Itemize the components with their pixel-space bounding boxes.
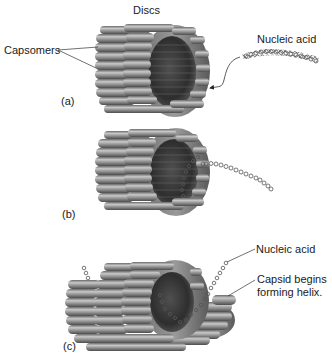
discs-label: Discs (133, 4, 160, 16)
insertion-arrow (210, 57, 240, 88)
panel-c-leader-lines (227, 249, 255, 296)
capsomers-label: Capsomers (4, 44, 60, 56)
nucleic-acid-label-a: Nucleic acid (257, 33, 316, 45)
panel-label-b: (b) (62, 208, 75, 220)
capsid-helix-label-line1: Capsid begins (257, 273, 327, 285)
capsid-helix-label-line2: forming helix. (257, 286, 322, 298)
panel-c-capsid-helix (65, 260, 236, 351)
capsomers-leader-lines (58, 47, 98, 68)
panel-label-a: (a) (61, 95, 74, 107)
panel-a-capsid-discs (95, 24, 210, 117)
nucleic-acid-label-c: Nucleic acid (256, 243, 315, 255)
panel-b-capsid-discs (95, 128, 273, 216)
panel-label-c: (c) (63, 340, 76, 352)
